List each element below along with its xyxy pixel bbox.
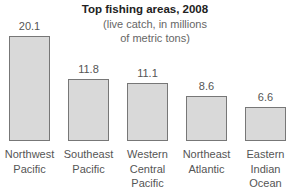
subtitle-line-1: (live catch, in millions (80, 17, 230, 31)
bar-value-label: 11.1 (123, 67, 173, 79)
bar-2 (127, 83, 168, 141)
category-label: SoutheastPacific (58, 147, 120, 176)
bar-value-label: 11.8 (64, 63, 114, 75)
bar-1 (68, 79, 109, 141)
bar-3 (186, 96, 227, 141)
category-label: WesternCentralPacific (117, 147, 179, 191)
category-label: NorthwestPacific (0, 147, 61, 176)
chart-subtitle: (live catch, in millions of metric tons) (80, 17, 230, 45)
bar-value-label: 6.6 (241, 91, 291, 103)
chart-title: Top fishing areas, 2008 (0, 3, 290, 15)
bar-4 (245, 107, 286, 141)
subtitle-line-2: of metric tons) (80, 31, 230, 45)
bar-value-label: 20.1 (5, 20, 55, 32)
bar-0 (9, 36, 50, 141)
category-label: NortheastAtlantic (176, 147, 238, 176)
category-label: EasternIndianOcean (235, 147, 291, 191)
bar-value-label: 8.6 (182, 80, 232, 92)
